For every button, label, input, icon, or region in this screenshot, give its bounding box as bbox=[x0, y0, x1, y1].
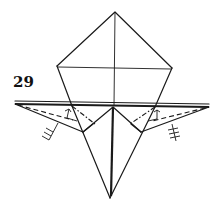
left-repeat-marks-icon bbox=[42, 123, 58, 140]
wings-bar bbox=[15, 101, 209, 107]
upper-kite bbox=[57, 12, 172, 107]
center-spine bbox=[111, 107, 113, 196]
center-crease bbox=[114, 12, 115, 106]
left-wing bbox=[15, 104, 95, 140]
lower-body bbox=[72, 106, 155, 198]
left-fold-arrow-icon bbox=[65, 109, 71, 118]
right-valley-fold bbox=[152, 108, 205, 121]
left-valley-fold bbox=[18, 105, 73, 120]
origami-diagram: 29 bbox=[0, 0, 224, 212]
fold-diagram-svg bbox=[0, 0, 224, 212]
right-repeat-marks-icon bbox=[168, 124, 180, 141]
right-fold-arrow-icon bbox=[154, 110, 160, 119]
right-wing bbox=[130, 107, 209, 141]
